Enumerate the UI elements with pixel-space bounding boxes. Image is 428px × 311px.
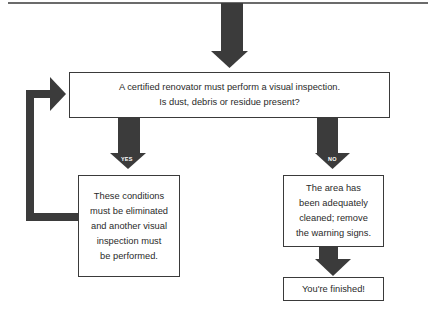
no-result-line: the warning signs.: [296, 226, 371, 241]
finish-arrow-icon: [315, 247, 351, 276]
no-result-line: cleaned; remove: [299, 211, 368, 226]
yes-result-line: be performed.: [100, 249, 158, 264]
down-arrow-icon: [211, 3, 248, 68]
finished-text: You're finished!: [302, 282, 365, 297]
yes-result-line: These conditions: [94, 189, 164, 204]
flowchart-connectors: [0, 0, 428, 311]
inspection-box: A certified renovator must perform a vis…: [69, 72, 390, 118]
yes-label: YES: [121, 156, 133, 162]
yes-result-line: must be eliminated: [90, 204, 168, 219]
no-result-line: The area has: [306, 181, 361, 196]
no-result-box: The area has been adequately cleaned; re…: [283, 175, 384, 247]
inspection-question: Is dust, debris or residue present?: [159, 95, 300, 110]
finished-box: You're finished!: [283, 277, 384, 301]
no-result-line: been adequately: [299, 196, 368, 211]
yes-result-box: These conditions must be eliminated and …: [78, 175, 180, 277]
no-label: NO: [328, 156, 337, 162]
inspection-text-line1: A certified renovator must perform a vis…: [119, 80, 340, 95]
yes-result-line: and another visual: [91, 219, 167, 234]
yes-result-line: inspection must: [97, 234, 162, 249]
